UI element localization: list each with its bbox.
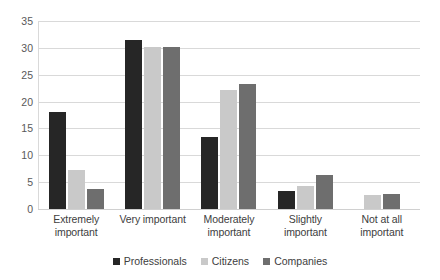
bar-professionals-0[interactable]: [49, 112, 66, 209]
category-label: Extremelyimportant: [38, 213, 114, 238]
bar-group: [114, 21, 190, 209]
chart-legend: ProfessionalsCitizensCompanies: [0, 256, 440, 267]
legend-swatch-icon: [201, 258, 208, 265]
x-axis-category-labels: ExtremelyimportantVery importantModerate…: [38, 213, 420, 249]
bar-group: [191, 21, 267, 209]
y-tick-label-20: 20: [1, 96, 33, 107]
category-label: Very important: [114, 213, 190, 226]
bar-companies-3[interactable]: [316, 175, 333, 209]
bar-professionals-2[interactable]: [201, 137, 218, 209]
y-axis-tick-labels: 35302520151050: [0, 21, 33, 209]
y-tick-label-10: 10: [1, 150, 33, 161]
bar-citizens-0[interactable]: [68, 170, 85, 209]
category-label: Not at allimportant: [344, 213, 420, 238]
bar-professionals-1[interactable]: [125, 40, 142, 209]
legend-label: Companies: [274, 256, 327, 267]
bar-citizens-3[interactable]: [297, 186, 314, 209]
legend-label: Professionals: [124, 256, 187, 267]
bar-companies-2[interactable]: [239, 84, 256, 209]
legend-item-citizens[interactable]: Citizens: [201, 256, 249, 267]
legend-swatch-icon: [263, 258, 270, 265]
legend-item-companies[interactable]: Companies: [263, 256, 327, 267]
bar-group: [344, 21, 420, 209]
bar-companies-1[interactable]: [163, 47, 180, 209]
legend-label: Citizens: [212, 256, 249, 267]
y-tick-label-0: 0: [1, 204, 33, 215]
y-tick-label-5: 5: [1, 177, 33, 188]
bar-citizens-2[interactable]: [220, 90, 237, 209]
legend-swatch-icon: [113, 258, 120, 265]
y-tick-label-25: 25: [1, 69, 33, 80]
bar-companies-4[interactable]: [383, 194, 400, 209]
y-tick-label-35: 35: [1, 16, 33, 27]
category-label: Moderatelyimportant: [191, 213, 267, 238]
bar-citizens-4[interactable]: [364, 195, 381, 210]
bar-group: [267, 21, 343, 209]
category-label: Slightly important: [267, 213, 343, 238]
plot-area: [38, 21, 420, 209]
y-tick-label-15: 15: [1, 123, 33, 134]
legend-item-professionals[interactable]: Professionals: [113, 256, 187, 267]
bar-chart: 35302520151050 ExtremelyimportantVery im…: [0, 0, 440, 280]
bar-group: [38, 21, 114, 209]
bar-professionals-3[interactable]: [278, 191, 295, 209]
gridline-0: [38, 209, 420, 210]
y-tick-label-30: 30: [1, 43, 33, 54]
bar-companies-0[interactable]: [87, 189, 104, 209]
bar-citizens-1[interactable]: [144, 47, 161, 209]
